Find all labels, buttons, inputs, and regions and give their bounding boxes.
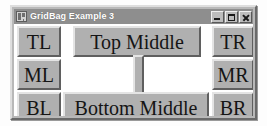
window-titlebar[interactable]: GridBag Example 3 (14, 9, 253, 24)
button-bottom-middle[interactable]: Bottom Middle (63, 92, 209, 116)
minimize-button[interactable] (211, 11, 224, 23)
button-ml-label: ML (24, 65, 54, 85)
minimize-icon (212, 12, 223, 22)
gridbag-content-pane: TL Top Middle TR ML MR BL (14, 24, 253, 116)
close-icon (240, 12, 251, 22)
button-ml[interactable]: ML (17, 59, 61, 90)
button-mr[interactable]: MR (212, 59, 253, 90)
button-bottom-middle-label: Bottom Middle (75, 98, 198, 117)
button-bl-label: BL (26, 98, 52, 117)
button-bl[interactable]: BL (17, 92, 61, 116)
button-center[interactable] (133, 55, 144, 94)
button-br-label: BR (220, 98, 247, 117)
button-top-middle-label: Top Middle (90, 32, 184, 52)
button-br[interactable]: BR (212, 92, 253, 116)
button-tr[interactable]: TR (212, 26, 253, 57)
screen-canvas: GridBag Example 3 TL Top Middle TR (0, 0, 267, 126)
button-top-middle[interactable]: Top Middle (73, 26, 201, 57)
maximize-icon (226, 12, 237, 22)
button-tl-label: TL (27, 32, 51, 52)
java-window-icon (16, 11, 27, 22)
button-tr-label: TR (220, 32, 246, 52)
maximize-button[interactable] (225, 11, 238, 23)
close-button[interactable] (239, 11, 252, 23)
window-title: GridBag Example 3 (30, 11, 210, 22)
button-tl[interactable]: TL (17, 26, 61, 57)
button-mr-label: MR (217, 65, 248, 85)
application-window: GridBag Example 3 TL Top Middle TR (10, 5, 257, 120)
